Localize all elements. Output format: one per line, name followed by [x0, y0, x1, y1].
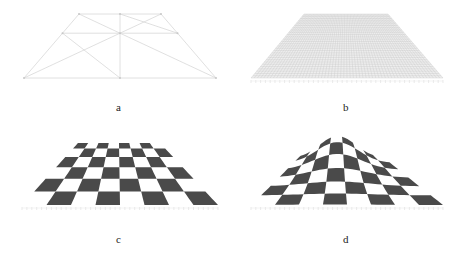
panel-label-d: d [343, 233, 349, 245]
panel-b: b [231, 0, 462, 130]
panel-label-a: a [116, 101, 121, 113]
panel-c: c [0, 130, 231, 259]
panel-label-b: b [343, 101, 349, 113]
panel-d: d [231, 130, 462, 259]
panel-label-c: c [116, 233, 121, 245]
panel-a: a [0, 0, 231, 130]
